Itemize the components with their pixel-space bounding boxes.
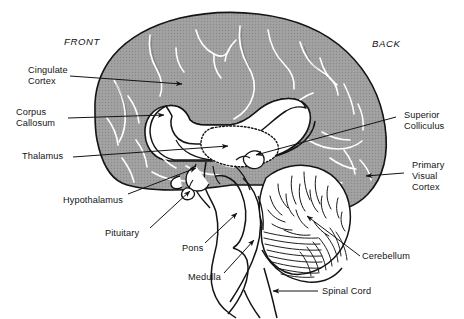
cerebral-cortex (95, 12, 386, 211)
cerebellum (258, 165, 350, 282)
label-cingulate-cortex: Cingulate Cortex (28, 65, 68, 87)
label-primary-visual-cortex: Primary Visual Cortex (412, 160, 444, 194)
label-spinal-cord: Spinal Cord (322, 286, 371, 297)
label-hypothalamus: Hypothalamus (63, 195, 123, 206)
label-pons: Pons (182, 243, 203, 254)
pituitary-gland (182, 188, 195, 200)
label-corpus-callosum: Corpus Callosum (16, 107, 55, 129)
label-cerebellum: Cerebellum (362, 251, 410, 262)
spinal-cord-posterior (264, 268, 277, 318)
label-superior-colliculus: Superior Colliculus (404, 110, 444, 132)
leader-pons (205, 213, 237, 243)
label-thalamus: Thalamus (22, 151, 63, 162)
label-pituitary: Pituitary (105, 228, 139, 239)
orientation-front: FRONT (64, 36, 100, 47)
spinal-cord (244, 268, 277, 318)
spinal-cord-anterior (244, 290, 260, 318)
leader-pituitary (150, 191, 190, 228)
brain-diagram-figure: FRONT BACK Cingulate Cortex Corpus Callo… (0, 0, 464, 319)
label-medulla: Medulla (188, 272, 221, 283)
orientation-back: BACK (372, 38, 401, 49)
